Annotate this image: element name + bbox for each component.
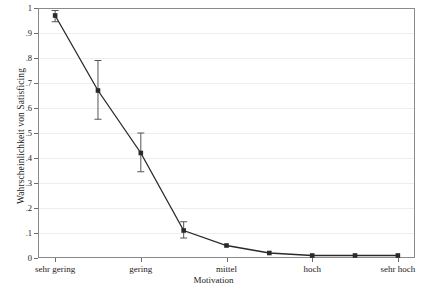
- x-tick-label: sehr hoch: [380, 264, 415, 275]
- x-tick-mark: [398, 258, 399, 262]
- x-tick-label: hoch: [303, 264, 321, 275]
- plot-frame: [38, 8, 415, 258]
- x-tick-mark: [312, 258, 313, 262]
- chart-figure: Wahrscheinlichkeit von Satisficing 0.1.2…: [0, 0, 427, 291]
- y-tick-mark: [34, 258, 38, 259]
- x-tick-mark: [55, 258, 56, 262]
- x-tick-label: mittel: [216, 264, 237, 275]
- x-tick-label: gering: [129, 264, 152, 275]
- x-tick-mark: [141, 258, 142, 262]
- x-tick-mark: [227, 258, 228, 262]
- x-axis-title: Motivation: [0, 275, 427, 286]
- x-tick-label: sehr gering: [35, 264, 75, 275]
